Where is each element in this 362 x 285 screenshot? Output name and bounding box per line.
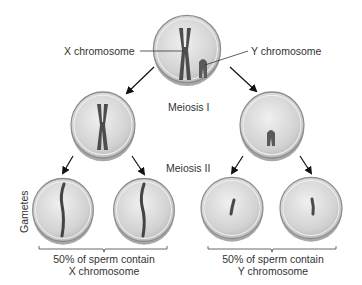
x-chromosome-label: X chromosome [64, 45, 135, 57]
arrow-to-y-cell [230, 67, 256, 91]
gametes-label: Gametes [18, 190, 30, 233]
meiosis-2-label: Meiosis II [166, 162, 210, 174]
x-group-caption-line2: X chromosome [40, 265, 168, 277]
y-group-caption-line2: Y chromosome [209, 265, 337, 277]
y-chromosome-label: Y chromosome [251, 45, 321, 57]
arrow-to-gamete-x-1 [63, 156, 73, 173]
x-gametes-brace [39, 246, 167, 252]
arrow-to-x-cell [127, 67, 154, 93]
y-group-caption-line1: 50% of sperm contain [209, 253, 337, 265]
meiosis-1-label: Meiosis I [168, 101, 209, 113]
meiosis1-y-cell [240, 92, 304, 161]
x-group-caption-line1: 50% of sperm contain [40, 253, 168, 265]
y-group-caption: 50% of sperm contain Y chromosome [209, 253, 337, 277]
arrow-to-gamete-y-2 [300, 156, 311, 173]
arrow-to-gamete-x-2 [132, 156, 144, 174]
x-group-caption: 50% of sperm contain X chromosome [40, 253, 168, 277]
y-chromatid-2 [312, 199, 313, 214]
arrow-to-gamete-y-1 [232, 156, 243, 173]
meiosis-diagram [0, 0, 362, 285]
y-gametes-brace [208, 246, 336, 252]
gamete-y-2 [280, 177, 342, 241]
